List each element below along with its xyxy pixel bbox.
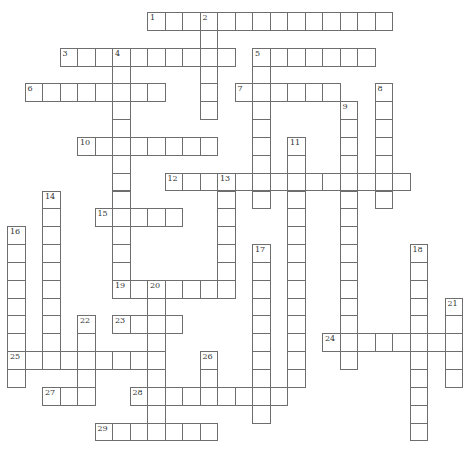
crossword-cell[interactable] xyxy=(60,387,79,406)
crossword-cell[interactable] xyxy=(200,423,219,442)
crossword-cell[interactable]: 6 xyxy=(25,83,44,102)
crossword-cell[interactable] xyxy=(7,333,26,352)
crossword-cell[interactable] xyxy=(287,155,306,174)
crossword-cell[interactable]: 12 xyxy=(165,173,184,192)
crossword-cell[interactable] xyxy=(112,173,131,192)
crossword-cell[interactable] xyxy=(287,298,306,317)
crossword-cell[interactable] xyxy=(7,315,26,334)
crossword-cell[interactable] xyxy=(410,369,429,388)
crossword-cell[interactable] xyxy=(77,387,96,406)
crossword-cell[interactable] xyxy=(287,244,306,263)
crossword-cell[interactable]: 24 xyxy=(322,333,341,352)
crossword-cell[interactable]: 28 xyxy=(130,387,149,406)
crossword-cell[interactable] xyxy=(340,262,359,281)
crossword-cell[interactable] xyxy=(392,173,411,192)
crossword-cell[interactable] xyxy=(77,333,96,352)
crossword-cell[interactable] xyxy=(252,387,271,406)
crossword-cell[interactable] xyxy=(182,173,201,192)
crossword-cell[interactable] xyxy=(147,48,166,67)
crossword-cell[interactable]: 26 xyxy=(200,351,219,370)
crossword-cell[interactable] xyxy=(410,405,429,424)
crossword-cell[interactable] xyxy=(42,83,61,102)
crossword-cell[interactable] xyxy=(42,262,61,281)
crossword-cell[interactable]: 7 xyxy=(235,83,254,102)
crossword-cell[interactable] xyxy=(165,12,184,31)
crossword-cell[interactable] xyxy=(200,137,219,156)
crossword-cell[interactable] xyxy=(147,423,166,442)
crossword-cell[interactable] xyxy=(287,333,306,352)
crossword-cell[interactable] xyxy=(340,173,359,192)
crossword-cell[interactable] xyxy=(42,351,61,370)
crossword-cell[interactable] xyxy=(410,333,429,352)
crossword-cell[interactable] xyxy=(252,155,271,174)
crossword-cell[interactable] xyxy=(95,137,114,156)
crossword-cell[interactable] xyxy=(147,387,166,406)
crossword-cell[interactable] xyxy=(375,137,394,156)
crossword-cell[interactable] xyxy=(77,83,96,102)
crossword-cell[interactable] xyxy=(217,262,236,281)
crossword-cell[interactable] xyxy=(130,351,149,370)
crossword-cell[interactable] xyxy=(95,48,114,67)
crossword-cell[interactable]: 4 xyxy=(112,48,131,67)
crossword-cell[interactable] xyxy=(410,423,429,442)
crossword-cell[interactable] xyxy=(77,369,96,388)
crossword-cell[interactable] xyxy=(235,173,254,192)
crossword-cell[interactable] xyxy=(60,351,79,370)
crossword-cell[interactable]: 10 xyxy=(77,137,96,156)
crossword-cell[interactable] xyxy=(217,12,236,31)
crossword-cell[interactable] xyxy=(42,280,61,299)
crossword-cell[interactable] xyxy=(375,12,394,31)
crossword-cell[interactable] xyxy=(252,173,271,192)
crossword-cell[interactable] xyxy=(445,315,464,334)
crossword-cell[interactable]: 1 xyxy=(147,12,166,31)
crossword-cell[interactable] xyxy=(95,351,114,370)
crossword-cell[interactable] xyxy=(252,333,271,352)
crossword-cell[interactable] xyxy=(165,280,184,299)
crossword-cell[interactable] xyxy=(130,315,149,334)
crossword-cell[interactable] xyxy=(252,191,271,210)
crossword-cell[interactable]: 29 xyxy=(95,423,114,442)
crossword-cell[interactable] xyxy=(200,48,219,67)
crossword-cell[interactable] xyxy=(340,333,359,352)
crossword-cell[interactable] xyxy=(217,387,236,406)
crossword-cell[interactable] xyxy=(322,48,341,67)
crossword-cell[interactable] xyxy=(130,48,149,67)
crossword-cell[interactable] xyxy=(340,226,359,245)
crossword-cell[interactable] xyxy=(445,351,464,370)
crossword-cell[interactable] xyxy=(427,333,446,352)
crossword-cell[interactable] xyxy=(340,137,359,156)
crossword-cell[interactable] xyxy=(340,298,359,317)
crossword-cell[interactable] xyxy=(217,191,236,210)
crossword-cell[interactable] xyxy=(165,137,184,156)
crossword-cell[interactable] xyxy=(305,173,324,192)
crossword-cell[interactable] xyxy=(147,315,166,334)
crossword-cell[interactable] xyxy=(322,12,341,31)
crossword-cell[interactable] xyxy=(200,387,219,406)
crossword-cell[interactable] xyxy=(340,12,359,31)
crossword-cell[interactable] xyxy=(77,351,96,370)
crossword-cell[interactable] xyxy=(375,119,394,138)
crossword-cell[interactable] xyxy=(235,12,254,31)
crossword-cell[interactable] xyxy=(200,280,219,299)
crossword-cell[interactable] xyxy=(252,405,271,424)
crossword-cell[interactable] xyxy=(270,387,289,406)
crossword-cell[interactable] xyxy=(287,280,306,299)
crossword-cell[interactable] xyxy=(340,244,359,263)
crossword-cell[interactable] xyxy=(112,423,131,442)
crossword-cell[interactable] xyxy=(200,369,219,388)
crossword-cell[interactable] xyxy=(112,262,131,281)
crossword-cell[interactable] xyxy=(287,12,306,31)
crossword-cell[interactable] xyxy=(200,101,219,120)
crossword-cell[interactable] xyxy=(147,298,166,317)
crossword-cell[interactable] xyxy=(287,315,306,334)
crossword-cell[interactable] xyxy=(112,226,131,245)
crossword-cell[interactable] xyxy=(252,83,271,102)
crossword-cell[interactable] xyxy=(287,48,306,67)
crossword-cell[interactable] xyxy=(252,119,271,138)
crossword-cell[interactable] xyxy=(147,83,166,102)
crossword-cell[interactable]: 11 xyxy=(287,137,306,156)
crossword-cell[interactable] xyxy=(410,298,429,317)
crossword-cell[interactable] xyxy=(147,351,166,370)
crossword-cell[interactable] xyxy=(42,226,61,245)
crossword-cell[interactable]: 14 xyxy=(42,191,61,210)
